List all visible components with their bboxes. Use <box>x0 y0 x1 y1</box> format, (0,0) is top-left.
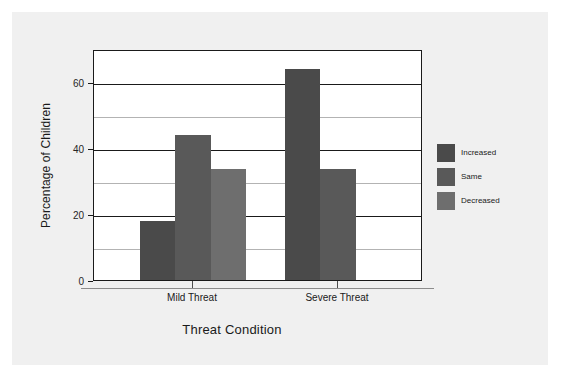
legend-swatch-icon <box>437 168 455 186</box>
gridline-major <box>94 150 421 151</box>
plot-area <box>93 50 422 281</box>
gridline-major <box>94 84 421 85</box>
y-axis-title: Percentage of Children <box>39 0 55 50</box>
bar-decreased-mild-threat <box>211 169 246 280</box>
x-tick-label: Mild Threat <box>167 292 217 303</box>
x-tick-mark <box>337 281 338 288</box>
gridline-major <box>94 216 421 217</box>
bar-increased-mild-threat <box>140 221 175 280</box>
x-axis-title: Threat Condition <box>12 322 452 337</box>
bar-same-mild-threat <box>175 135 210 280</box>
legend-label: Decreased <box>461 196 500 205</box>
x-tick-mark <box>192 281 193 288</box>
bar-increased-severe-threat <box>285 69 320 280</box>
x-tick-label: Severe Threat <box>305 292 368 303</box>
y-axis-title-text: Percentage of Children <box>39 50 53 281</box>
bar-same-severe-threat <box>320 169 355 280</box>
legend-label: Increased <box>461 148 496 157</box>
legend-item-increased: Increased <box>437 142 537 163</box>
legend-swatch-icon <box>437 144 455 162</box>
legend-item-same: Same <box>437 166 537 187</box>
chart-figure: 0204060 Percentage of Children Mild Thre… <box>12 12 548 365</box>
gridline-minor <box>94 117 421 118</box>
gridline-minor <box>94 183 421 184</box>
chart-legend: IncreasedSameDecreased <box>437 142 537 214</box>
legend-swatch-icon <box>437 192 455 210</box>
x-axis-line <box>81 288 434 289</box>
legend-item-decreased: Decreased <box>437 190 537 211</box>
legend-label: Same <box>461 172 482 181</box>
y-tick-mark <box>88 281 93 282</box>
